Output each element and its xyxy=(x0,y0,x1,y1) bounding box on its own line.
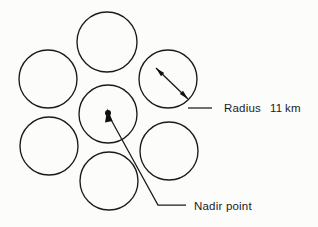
radius-value: 11 xyxy=(270,102,282,114)
diagram-canvas: Radius 11 km Nadir point xyxy=(0,0,318,227)
nadir-label: Nadir point xyxy=(194,200,252,212)
nadir-point-diagram: Radius 11 km Nadir point xyxy=(0,0,318,227)
nadir-point-dot xyxy=(105,110,111,116)
radius-label: Radius xyxy=(224,102,261,114)
radius-unit: km xyxy=(285,102,301,114)
